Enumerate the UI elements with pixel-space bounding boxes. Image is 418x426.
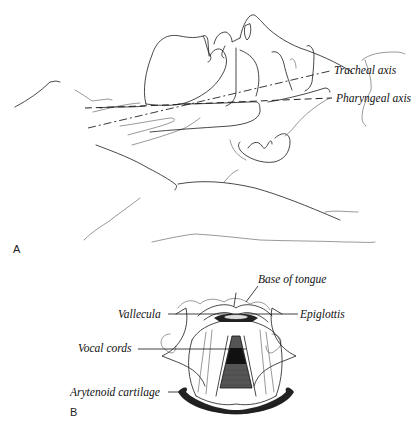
epiglottis-label: Epiglottis — [299, 308, 345, 321]
panel-b-illustration — [161, 293, 296, 414]
tracheal-axis-label: Tracheal axis — [334, 64, 397, 76]
base-of-tongue-label: Base of tongue — [258, 273, 326, 286]
arytenoid-cartilage-label: Arytenoid cartilage — [69, 386, 160, 399]
axis-lines — [85, 71, 332, 128]
panel-a-illustration — [15, 15, 405, 243]
airway-diagram: Tracheal axis Pharyngeal axis A — [0, 0, 418, 426]
vocal-cords-label: Vocal cords — [78, 342, 132, 354]
tracheal-axis-line — [88, 71, 330, 128]
panel-a-label: A — [13, 243, 21, 255]
vallecula-label: Vallecula — [118, 308, 161, 320]
panel-b-label: B — [70, 406, 77, 418]
pharyngeal-axis-label: Pharyngeal axis — [335, 92, 412, 105]
panel-b-leaders — [138, 286, 298, 392]
